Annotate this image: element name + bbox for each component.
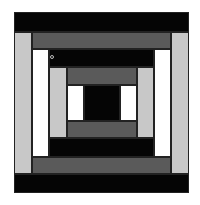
outer-top-black-piece: [14, 12, 189, 32]
outer-bottom-black-piece: [14, 174, 189, 193]
left-light-gray-piece: [14, 32, 32, 174]
left-white-piece: [32, 49, 49, 157]
right-white-piece: [154, 49, 171, 157]
inner-left-white-piece: [67, 85, 84, 121]
inner-top-dark-gray-piece: [67, 67, 137, 85]
mid-top-black-piece: [49, 49, 154, 67]
marker-dot-icon: [50, 55, 54, 59]
mid-bottom-black-piece: [49, 138, 154, 157]
top-dark-gray-piece: [32, 32, 171, 49]
right-light-gray-piece: [171, 32, 189, 174]
center-black-piece: [84, 85, 120, 121]
inner-right-light-gray-piece: [137, 67, 154, 138]
inner-bottom-dark-gray-piece: [67, 121, 137, 138]
bottom-dark-gray-piece: [32, 157, 171, 174]
inner-left-light-gray-piece: [49, 67, 67, 138]
inner-right-white-piece: [120, 85, 137, 121]
